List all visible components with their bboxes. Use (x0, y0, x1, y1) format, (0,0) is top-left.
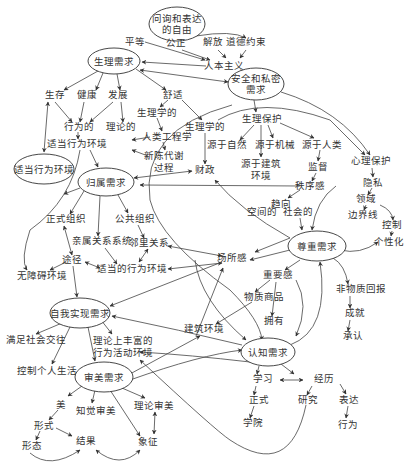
label-research: 研究 (298, 394, 318, 405)
label-physiological-1: 生理学的 (137, 107, 177, 118)
label-social: 社会的 (283, 206, 313, 217)
label-justice: 公正 (166, 37, 186, 48)
label-territory: 领域 (356, 193, 376, 204)
label-humanism: 人本主义 (204, 60, 244, 71)
node-esteem-needs: 尊重需求 (288, 231, 346, 261)
svg-text:归属需求: 归属需求 (86, 177, 126, 188)
node-belonging-needs: 归属需求 (78, 168, 134, 196)
label-privacy: 隐私 (363, 177, 383, 188)
label-ergonomics: 人类工程学 (142, 131, 192, 142)
label-control-life: 控制个人生活 (17, 365, 77, 376)
svg-text:的自由: 的自由 (162, 24, 192, 35)
label-rich-env-1: 理论上丰富的 (93, 335, 153, 346)
label-proper-env: 适当的行为环境 (97, 263, 167, 274)
label-supervise: 监督 (308, 161, 328, 172)
label-nonmaterial-reward: 非物质回报 (336, 283, 386, 294)
svg-text:生理需求: 生理需求 (94, 56, 134, 67)
label-psych-protection: 心理保护 (351, 155, 391, 166)
label-finance: 财政 (195, 164, 215, 175)
label-express: 表达 (339, 394, 359, 405)
label-from-nature: 源于自然 (207, 139, 247, 150)
label-formal: 正式 (249, 394, 269, 405)
label-spatial: 空间的 (247, 206, 277, 217)
node-freedom: 问询和表达 的自由 (149, 7, 205, 41)
label-physio-protection: 生理保护 (242, 113, 282, 124)
label-theoretical: 理论的 (106, 121, 136, 132)
label-from-building-env: 环境 (251, 170, 271, 181)
label-from-building: 源于建筑 (241, 158, 281, 169)
label-moral-constraint: 道德约束 (226, 36, 266, 47)
label-control: 控制 (382, 219, 402, 230)
label-neighborhood: 邻里关系 (129, 237, 169, 248)
label-learning: 学习 (253, 373, 273, 384)
node-safety-privacy-needs: 安全和私密 需求 (228, 68, 284, 100)
diagram-canvas: 问询和表达 的自由 生理需求 安全和私密 需求 适当行为环境 归属需求 尊重需求… (0, 0, 408, 469)
label-behavior: 行为 (338, 419, 358, 430)
label-social-exchange: 满足社会交往 (6, 334, 66, 345)
label-perceptual-aesthetic: 知觉审美 (76, 405, 116, 416)
label-own: 拥有 (264, 315, 284, 326)
svg-text:问询和表达: 问询和表达 (152, 13, 202, 24)
label-shape: 形态 (22, 440, 42, 451)
label-individuality: 个性化 (374, 236, 404, 247)
label-from-human: 源于人类 (302, 139, 342, 150)
label-barrier-free: 无障碍环境 (17, 270, 67, 281)
svg-text:审美需求: 审美需求 (84, 372, 124, 383)
label-theory-aesthetic: 理论审美 (134, 400, 174, 411)
label-form: 形式 (34, 420, 54, 431)
label-boundary: 边界线 (348, 209, 378, 220)
svg-text:尊重需求: 尊重需求 (297, 241, 337, 252)
node-physiological-needs: 生理需求 (88, 48, 140, 74)
label-kinship: 亲属关系系统 (72, 235, 132, 246)
label-recognition: 承认 (343, 330, 363, 341)
label-path: 途径 (62, 254, 82, 265)
label-survival: 生存 (45, 89, 65, 100)
svg-text:认知需求: 认知需求 (248, 347, 288, 358)
svg-text:适当行为环境: 适当行为环境 (14, 164, 74, 175)
label-experience: 经历 (314, 373, 334, 384)
label-comfort: 舒适 (163, 89, 183, 100)
label-development: 发展 (108, 89, 128, 100)
label-beauty: 美 (56, 399, 66, 410)
label-from-machine: 源于机械 (255, 139, 295, 150)
svg-text:安全和私密: 安全和私密 (231, 73, 281, 84)
label-health: 健康 (77, 89, 97, 100)
label-order: 秩序感 (295, 180, 325, 191)
label-place-sense: 场所感 (217, 252, 247, 263)
label-liberation: 解放 (203, 36, 223, 47)
label-building-env: 建筑环境 (184, 323, 224, 334)
label-importance: 重要感 (263, 269, 293, 280)
label-result: 结果 (76, 435, 96, 446)
node-self-actualization-needs: 自我实现需求 (50, 298, 110, 328)
node-aesthetic-needs: 审美需求 (75, 362, 133, 392)
label-formal-org: 正式组织 (46, 213, 86, 224)
label-rich-env-2: 行为活动环境 (93, 347, 153, 358)
label-behavioral: 行为的 (64, 121, 94, 132)
label-symbol: 象征 (138, 436, 158, 447)
label-goods: 物质商品 (244, 291, 284, 302)
node-cognitive-needs: 认知需求 (241, 338, 295, 366)
label-fit-behavior-env: 适当行为环境 (47, 138, 107, 149)
svg-text:自我实现需求: 自我实现需求 (50, 308, 110, 319)
label-academy: 学院 (243, 417, 263, 428)
concept-map-diagram: 问询和表达 的自由 生理需求 安全和私密 需求 适当行为环境 归属需求 尊重需求… (0, 0, 408, 469)
label-metabolism: 新陈代谢 (144, 150, 184, 161)
label-achievement: 成就 (345, 307, 365, 318)
label-process: 过程 (154, 162, 174, 173)
label-equal: 平等 (125, 36, 145, 47)
svg-text:需求: 需求 (246, 84, 266, 95)
node-fit-behavior-env: 适当行为环境 (14, 154, 74, 184)
label-public-org: 公共组织 (115, 213, 155, 224)
